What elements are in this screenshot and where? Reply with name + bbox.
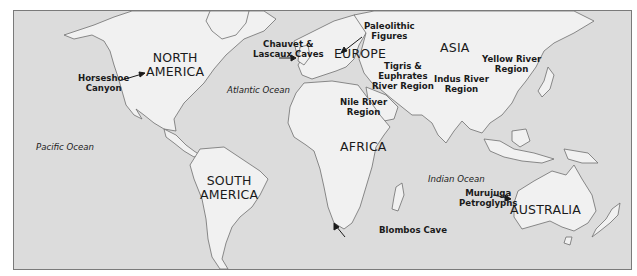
continent-label-asia: ASIA <box>440 41 470 55</box>
site-label-line: Canyon <box>78 84 129 94</box>
site-label-horseshoe-canyon: Horseshoe Canyon <box>78 74 129 94</box>
borneo-shape <box>512 129 530 147</box>
continent-label-line: NORTH <box>146 51 204 65</box>
new-zealand-shape <box>592 203 620 237</box>
continent-label-line: AMERICA <box>200 188 258 202</box>
site-label-paleolithic-figures: Paleolithic Figures <box>364 22 415 42</box>
site-label-tigris-euphrates: Tigris & Euphrates River Region <box>372 62 434 92</box>
site-label-line: River Region <box>372 82 434 92</box>
continent-label-south-america: SOUTH AMERICA <box>200 174 258 203</box>
site-label-nile: Nile River Region <box>340 98 387 118</box>
site-label-line: Figures <box>364 32 415 42</box>
world-map: NORTH AMERICA SOUTH AMERICA EUROPE ASIA … <box>13 10 632 270</box>
site-label-yellow-river: Yellow River Region <box>482 55 541 75</box>
site-label-line: Lascaux Caves <box>253 50 324 60</box>
ocean-label-pacific: Pacific Ocean <box>36 143 94 153</box>
madagascar-shape <box>392 183 404 211</box>
site-label-chauvet-lascaux: Chauvet & Lascaux Caves <box>253 40 324 60</box>
site-label-indus: Indus River Region <box>434 75 489 95</box>
site-label-murujuga: Murujuga Petroglyphs <box>459 189 517 209</box>
site-label-line: Petroglyphs <box>459 199 517 209</box>
tasmania-shape <box>564 237 572 245</box>
new-guinea-shape <box>564 149 598 163</box>
ocean-label-indian: Indian Ocean <box>428 175 485 185</box>
continent-label-australia: AUSTRALIA <box>510 203 581 217</box>
continent-label-north-america: NORTH AMERICA <box>146 51 204 80</box>
ocean-label-atlantic: Atlantic Ocean <box>227 86 290 96</box>
site-label-line: Region <box>434 85 489 95</box>
continent-label-africa: AFRICA <box>340 140 387 154</box>
continent-label-line: AMERICA <box>146 65 204 79</box>
central-america-shape <box>164 129 200 157</box>
site-label-line: Region <box>340 108 387 118</box>
south-america-shape <box>190 147 268 269</box>
continent-label-europe: EUROPE <box>334 47 386 61</box>
australia-shape <box>514 165 596 231</box>
site-label-blombos: Blombos Cave <box>379 226 447 236</box>
site-label-line: Region <box>482 65 541 75</box>
continent-label-line: SOUTH <box>200 174 258 188</box>
